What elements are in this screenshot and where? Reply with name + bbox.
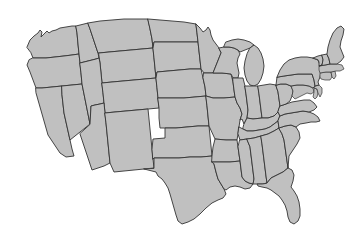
state-washington[interactable] xyxy=(27,26,79,58)
state-oklahoma[interactable] xyxy=(152,126,212,159)
state-oregon[interactable] xyxy=(27,54,82,88)
state-michigan-lp[interactable] xyxy=(244,45,264,86)
us-map-svg: United States Contiguous States Map xyxy=(0,0,349,245)
state-colorado[interactable] xyxy=(102,78,159,113)
state-nebraska[interactable] xyxy=(156,69,206,98)
state-wyoming[interactable] xyxy=(99,48,156,83)
state-montana[interactable] xyxy=(88,19,153,53)
states-layer xyxy=(27,19,344,224)
state-iowa[interactable] xyxy=(203,73,235,98)
state-maine[interactable] xyxy=(327,26,344,64)
us-map-container: United States Contiguous States Map xyxy=(0,0,349,245)
state-texas[interactable] xyxy=(144,156,226,224)
state-connecticut[interactable] xyxy=(320,72,332,80)
state-arkansas[interactable] xyxy=(212,139,240,162)
state-kansas[interactable] xyxy=(158,96,209,128)
state-new-mexico[interactable] xyxy=(105,109,154,172)
